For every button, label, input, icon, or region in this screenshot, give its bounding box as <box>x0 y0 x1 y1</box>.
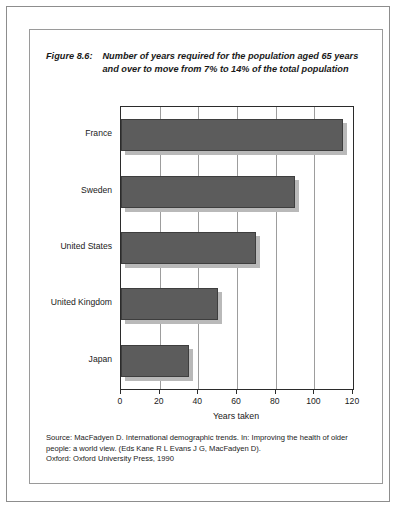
category-label: Sweden <box>81 185 112 195</box>
category-label: France <box>85 128 112 138</box>
bar <box>121 345 189 377</box>
axis-tick-label: 120 <box>332 396 372 406</box>
bar <box>121 119 343 151</box>
axis-tick <box>313 389 314 394</box>
axis-tick <box>197 389 198 394</box>
axis-tick-label: 100 <box>293 396 333 406</box>
source-note: Source: MacFadyen D. International demog… <box>46 433 376 465</box>
bar-group <box>121 119 353 151</box>
axis-tick <box>120 389 121 394</box>
bar-group <box>121 345 353 377</box>
source-line-2: people: a world view. (Eds Kane R L Evan… <box>46 444 376 455</box>
bar-group <box>121 288 353 320</box>
plot-area <box>120 106 354 390</box>
category-label: United Kingdom <box>51 297 112 307</box>
bar <box>121 232 256 264</box>
source-line-1: Source: MacFadyen D. International demog… <box>46 433 376 444</box>
page-border: Figure 8.6: Number of years required for… <box>6 6 390 502</box>
bar-group <box>121 232 353 264</box>
bar <box>121 288 218 320</box>
category-label: Japan <box>89 354 112 364</box>
x-axis-title: Years taken <box>120 411 352 421</box>
bars-layer <box>121 107 353 389</box>
axis-tick <box>352 389 353 394</box>
bar <box>121 176 295 208</box>
axis-tick <box>275 389 276 394</box>
axis-tick-label: 80 <box>255 396 295 406</box>
axis-tick-label: 60 <box>216 396 256 406</box>
source-line-3: Oxford: Oxford University Press, 1990 <box>46 454 376 465</box>
figure-panel: Figure 8.6: Number of years required for… <box>29 29 383 484</box>
bar-chart: FranceSwedenUnited StatesUnited KingdomJ… <box>30 30 384 485</box>
axis-tick <box>159 389 160 394</box>
category-label: United States <box>60 241 112 251</box>
axis-tick-label: 0 <box>100 396 140 406</box>
axis-tick <box>236 389 237 394</box>
axis-tick-label: 40 <box>177 396 217 406</box>
axis-tick-label: 20 <box>139 396 179 406</box>
bar-group <box>121 176 353 208</box>
